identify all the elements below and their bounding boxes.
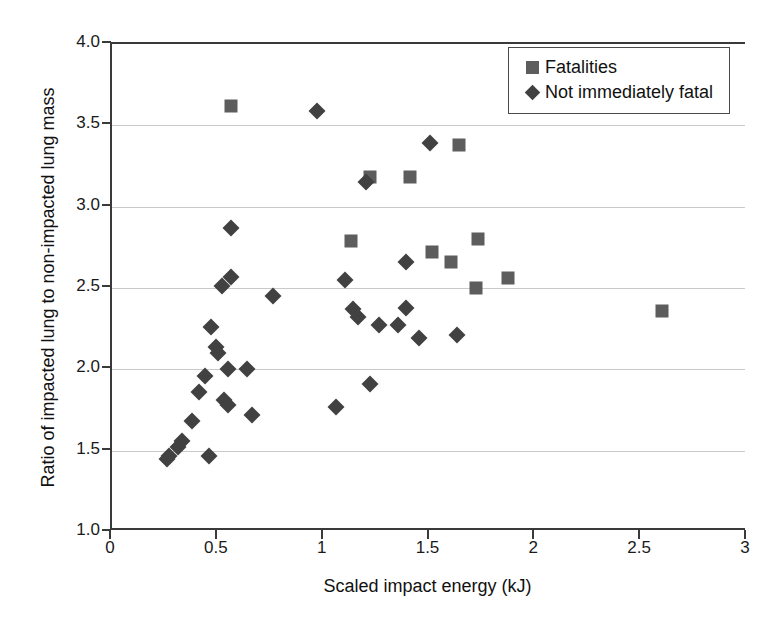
data-points-layer xyxy=(112,44,745,528)
x-axis-tick-label: 1 xyxy=(317,538,326,558)
y-axis-tick-label: 2.5 xyxy=(76,276,100,296)
legend-label: Not immediately fatal xyxy=(545,82,713,103)
data-point-square xyxy=(425,246,438,259)
data-point-square xyxy=(444,255,457,268)
data-point-square xyxy=(501,272,514,285)
data-point-diamond xyxy=(220,361,237,378)
data-point-diamond xyxy=(222,219,239,236)
data-point-diamond xyxy=(421,135,438,152)
legend-diamond-icon xyxy=(519,87,545,98)
data-point-diamond xyxy=(336,271,353,288)
legend-label: Fatalities xyxy=(545,57,617,78)
scatter-chart-figure: Ratio of impacted lung to non-impacted l… xyxy=(0,0,778,632)
data-point-diamond xyxy=(239,361,256,378)
data-point-square xyxy=(224,99,237,112)
y-axis-tick-label: 1.5 xyxy=(76,439,100,459)
plot-area xyxy=(110,42,745,530)
data-point-diamond xyxy=(201,447,218,464)
data-point-diamond xyxy=(184,413,201,430)
y-axis-tick-labels: 1.01.52.02.53.03.54.0 xyxy=(40,42,100,530)
y-axis-tick-label: 4.0 xyxy=(76,32,100,52)
x-axis-tick-label: 0 xyxy=(105,538,114,558)
data-point-square xyxy=(470,282,483,295)
x-axis-title: Scaled impact energy (kJ) xyxy=(110,576,745,597)
x-axis-tick-label: 1.5 xyxy=(416,538,440,558)
data-point-diamond xyxy=(362,375,379,392)
y-axis-tick-label: 2.0 xyxy=(76,357,100,377)
data-point-diamond xyxy=(328,398,345,415)
x-axis-tick-label: 0.5 xyxy=(204,538,228,558)
x-axis-tick-labels: 00.511.522.53 xyxy=(110,538,745,564)
data-point-diamond xyxy=(203,319,220,336)
x-axis-tick-label: 2 xyxy=(529,538,538,558)
y-axis-tick-label: 3.0 xyxy=(76,195,100,215)
data-point-diamond xyxy=(389,317,406,334)
data-point-diamond xyxy=(309,102,326,119)
legend-item-fatalities: Fatalities xyxy=(519,55,713,80)
legend-square-icon xyxy=(519,61,545,74)
data-point-square xyxy=(472,233,485,246)
data-point-diamond xyxy=(243,406,260,423)
data-point-square xyxy=(404,171,417,184)
data-point-diamond xyxy=(197,367,214,384)
data-point-square xyxy=(453,138,466,151)
x-axis-tick-label: 3 xyxy=(740,538,749,558)
legend-item-not-immediately-fatal: Not immediately fatal xyxy=(519,80,713,105)
data-point-diamond xyxy=(449,327,466,344)
chart-legend: Fatalities Not immediately fatal xyxy=(508,47,730,114)
data-point-diamond xyxy=(190,384,207,401)
data-point-square xyxy=(345,234,358,247)
x-axis-tick-label: 2.5 xyxy=(627,538,651,558)
data-point-square xyxy=(656,304,669,317)
data-point-diamond xyxy=(398,253,415,270)
y-axis-tick-label: 1.0 xyxy=(76,520,100,540)
data-point-diamond xyxy=(410,330,427,347)
data-point-diamond xyxy=(398,299,415,316)
y-axis-tick-label: 3.5 xyxy=(76,113,100,133)
data-point-diamond xyxy=(370,317,387,334)
data-point-diamond xyxy=(264,288,281,305)
